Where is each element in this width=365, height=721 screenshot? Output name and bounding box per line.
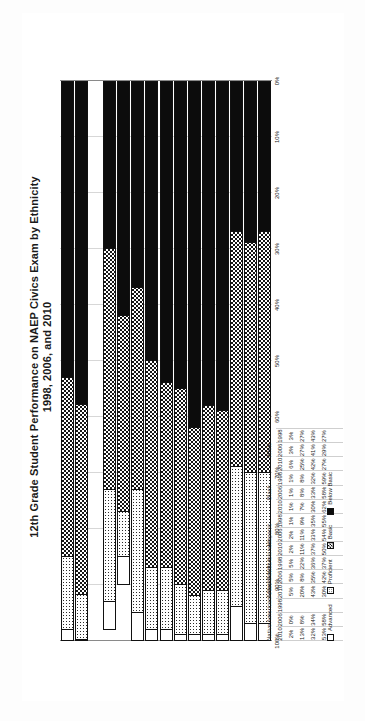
data-value-cell: 42%	[310, 457, 316, 471]
data-value-cell: 27%	[299, 443, 305, 457]
data-value-cell: 32%	[310, 471, 316, 485]
data-value-cell: 2%	[288, 528, 294, 542]
data-value-cell: 9%	[299, 514, 305, 528]
table-row	[75, 81, 88, 641]
legend-label: Below Basic	[327, 472, 333, 505]
bar-segment-belowbasic	[75, 81, 88, 405]
data-value-cell: 5%	[288, 556, 294, 570]
bar-segment-advanced	[103, 602, 116, 630]
year-label: 2010	[277, 542, 283, 556]
bar-segment-proficient	[202, 591, 215, 636]
bar-segment-advanced	[75, 640, 88, 641]
bar-segment-advanced	[244, 624, 257, 641]
data-value-cell: 30%	[310, 500, 316, 514]
group-label: Native American/ Alaska Native	[266, 599, 272, 641]
chart-legend: AdvancedProficientBasicBelow Basic	[322, 472, 338, 641]
plot-area	[60, 81, 272, 641]
stacked-bar	[244, 81, 257, 641]
stacked-bar	[230, 81, 243, 641]
table-row	[188, 81, 201, 641]
data-value-cell: 11%	[299, 528, 305, 542]
bar-segment-advanced	[230, 607, 243, 641]
bar-segment-proficient	[75, 595, 88, 640]
legend-item-proficient: Proficient	[327, 559, 334, 594]
data-value-cell: 7%	[299, 500, 305, 514]
data-value-cell: 34%	[310, 613, 316, 627]
bar-segment-belowbasic	[230, 81, 243, 232]
bar-segment-advanced	[117, 557, 130, 585]
data-value-cell: 2%	[288, 542, 294, 556]
data-value-cell: 29%	[321, 443, 327, 457]
bar-segment-belowbasic	[61, 81, 74, 378]
scanned-chart-page: 12th Grade Student Performance on NAEP C…	[0, 0, 365, 721]
bar-segment-proficient	[174, 585, 187, 635]
bar-segment-belowbasic	[258, 81, 271, 232]
bar-segment-basic	[174, 389, 187, 585]
legend-swatch-icon	[327, 508, 334, 515]
data-value-cell: 43%	[310, 584, 316, 598]
bar-segment-belowbasic	[188, 81, 201, 428]
year-label: 2006	[277, 613, 283, 627]
chart-title-line2: 1998, 2006, and 2010	[41, 13, 54, 701]
data-value-cell: 25%	[299, 457, 305, 471]
table-row	[117, 81, 130, 641]
data-value-cell: 27%	[321, 457, 327, 471]
bar-segment-advanced	[188, 635, 201, 641]
bar-segment-basic	[61, 378, 74, 557]
legend-item-advanced: Advanced	[327, 604, 334, 641]
year-label: 2006	[277, 528, 283, 542]
data-value-cell: 1%	[288, 486, 294, 500]
stacked-bar	[188, 81, 201, 641]
bar-segment-advanced	[174, 635, 187, 641]
bar-segment-advanced	[216, 635, 229, 641]
table-row	[103, 81, 116, 641]
legend-label: Proficient	[327, 559, 333, 584]
bar-segment-proficient	[131, 490, 144, 613]
year-label: 2010	[277, 584, 283, 598]
data-value-cell: 5%	[288, 570, 294, 584]
data-value-cell: 20%	[299, 584, 305, 598]
stacked-bar	[174, 81, 187, 641]
bar-segment-basic	[230, 232, 243, 467]
year-label: 2010	[277, 500, 283, 514]
stacked-bar	[75, 81, 88, 641]
bar-segment-proficient	[61, 557, 74, 630]
year-label: 1998	[277, 514, 283, 528]
year-label: 1998	[277, 556, 283, 570]
table-row	[202, 81, 215, 641]
chart-title: 12th Grade Student Performance on NAEP C…	[28, 13, 54, 701]
bar-segment-proficient	[188, 596, 201, 635]
data-value-cell: 11%	[299, 542, 305, 556]
data-value-cell: 32%	[310, 627, 316, 641]
table-row	[61, 81, 74, 641]
data-value-cell: 3%	[288, 429, 294, 443]
bar-segment-belowbasic	[131, 81, 144, 288]
data-value-cell: 27%	[299, 429, 305, 443]
legend-item-belowbasic: Below Basic	[327, 472, 334, 515]
data-value-cell: 22%	[299, 556, 305, 570]
bar-segment-belowbasic	[174, 81, 187, 389]
table-row	[216, 81, 229, 641]
table-row	[174, 81, 187, 641]
data-value-cell: 13%	[299, 627, 305, 641]
data-value-cell: 3%	[288, 443, 294, 457]
bar-segment-advanced	[131, 613, 144, 641]
bar-segment-basic	[131, 288, 144, 490]
bar-segment-advanced	[61, 630, 74, 641]
year-label: 2006	[277, 486, 283, 500]
table-row	[131, 81, 144, 641]
legend-swatch-icon	[327, 587, 334, 594]
bar-series-container	[60, 81, 272, 641]
group-label: Black	[266, 471, 272, 513]
data-value-cell: 8%	[299, 486, 305, 500]
bar-segment-advanced	[202, 635, 215, 641]
data-value-cell: 0%	[288, 613, 294, 627]
bar-segment-belowbasic	[160, 81, 173, 383]
group-label: White	[266, 429, 272, 471]
data-value-cell: 1%	[288, 471, 294, 485]
bar-segment-advanced	[145, 630, 158, 641]
table-row	[145, 81, 158, 641]
stacked-bar	[216, 81, 229, 641]
stacked-bar	[103, 81, 116, 641]
bar-segment-basic	[145, 361, 158, 568]
